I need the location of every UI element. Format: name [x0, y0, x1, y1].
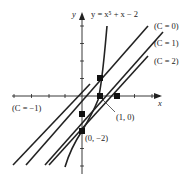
label-c-1: (C = 1) — [154, 38, 179, 48]
label-c-2: (C = 2) — [154, 56, 179, 66]
label-point-1-0: (1, 0) — [116, 112, 135, 122]
point-0-minus-1 — [79, 111, 85, 117]
label-point-0-minus-2: (0, −2) — [85, 133, 108, 143]
x-axis-label: x — [157, 98, 162, 108]
label-c-0: (C = 0) — [154, 21, 179, 31]
point-1-0 — [97, 93, 103, 99]
y-axis-label: y — [71, 9, 76, 19]
point-1-1 — [97, 75, 103, 81]
slope-field-diagram: y x y = x⁵ + x − 2 (C = 0) (C = 1) (C = … — [0, 0, 194, 177]
label-c-minus-1: (C = −1) — [12, 103, 42, 113]
curve-label: y = x⁵ + x − 2 — [91, 9, 138, 19]
line-c-0 — [26, 26, 148, 165]
isocline-lines — [13, 26, 163, 165]
point-2-0 — [114, 93, 120, 99]
